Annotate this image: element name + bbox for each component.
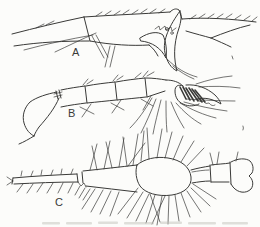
panel-b-label: B — [68, 107, 76, 119]
appendage-line-illustration: A — [0, 0, 260, 227]
figure-page: A — [0, 0, 260, 227]
panel-c-label: C — [55, 196, 63, 208]
panel-a-label: A — [72, 46, 80, 58]
